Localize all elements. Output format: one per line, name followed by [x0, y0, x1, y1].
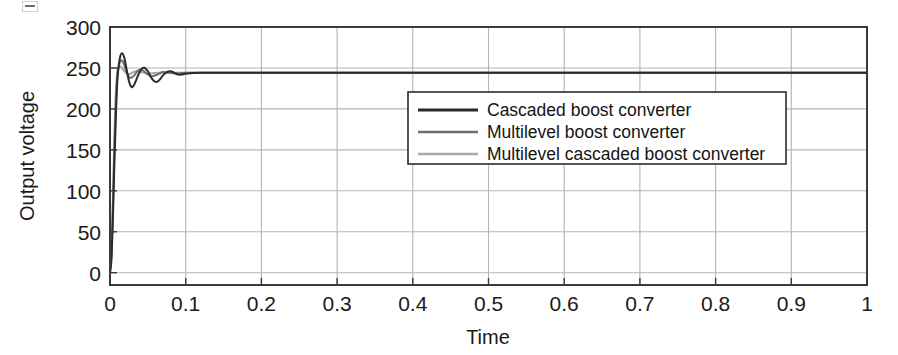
legend-label: Multilevel cascaded boost converter	[487, 144, 765, 164]
x-tick-label: 0	[104, 292, 116, 315]
x-tick-label: 0.8	[701, 292, 730, 315]
x-tick-label: 0.3	[322, 292, 351, 315]
x-tick-label: 1	[861, 292, 873, 315]
x-tick-label: 0.4	[398, 292, 428, 315]
x-tick-label: 0.9	[777, 292, 806, 315]
scan-artifact	[22, 1, 38, 12]
y-tick-labels: 050100150200250300	[66, 16, 101, 285]
legend-label: Multilevel boost converter	[487, 122, 686, 142]
x-tick-labels: 00.10.20.30.40.50.60.70.80.91	[104, 292, 873, 315]
legend-label: Cascaded boost converter	[487, 100, 691, 120]
y-tick-label: 250	[66, 57, 101, 80]
y-tick-label: 100	[66, 180, 101, 203]
x-tick-label: 0.1	[171, 292, 200, 315]
y-axis-title: Output voltage	[16, 91, 38, 221]
x-axis-title: Time	[466, 326, 510, 348]
chart-legend: Cascaded boost converterMultilevel boost…	[408, 92, 786, 164]
x-tick-label: 0.7	[625, 292, 654, 315]
y-tick-label: 50	[78, 221, 101, 244]
y-tick-label: 200	[66, 98, 101, 121]
y-tick-label: 0	[89, 262, 101, 285]
x-tick-label: 0.5	[474, 292, 503, 315]
line-chart-svg: 00.10.20.30.40.50.60.70.80.91 0501001502…	[0, 0, 898, 355]
y-tick-label: 150	[66, 139, 101, 162]
y-tick-label: 300	[66, 16, 101, 39]
x-tick-label: 0.6	[550, 292, 579, 315]
x-tick-label: 0.2	[247, 292, 276, 315]
chart-figure: 00.10.20.30.40.50.60.70.80.91 0501001502…	[0, 0, 898, 355]
